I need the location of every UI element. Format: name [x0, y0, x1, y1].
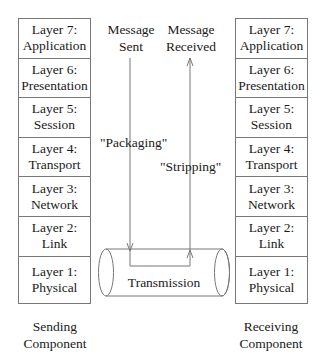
transmission-label: Transmission — [126, 274, 202, 291]
message-received-label: Message Received — [163, 21, 219, 55]
message-sent-label: Message Sent — [107, 21, 155, 55]
message-sent-line1: Message — [107, 21, 155, 38]
receiving-component-caption: Receiving Component — [226, 318, 316, 352]
sending-component-caption: Sending Component — [10, 318, 100, 352]
flow-lines — [0, 0, 324, 359]
caption-line1: Receiving — [226, 318, 316, 335]
stripping-label: "Stripping" — [160, 158, 221, 175]
packaging-label: "Packaging" — [100, 134, 167, 151]
packaging-arrow-icon — [127, 58, 133, 266]
message-received-line2: Received — [163, 38, 219, 55]
message-received-line1: Message — [163, 21, 219, 38]
message-sent-line2: Sent — [107, 38, 155, 55]
caption-line2: Component — [226, 335, 316, 352]
caption-line2: Component — [10, 335, 100, 352]
caption-line1: Sending — [10, 318, 100, 335]
